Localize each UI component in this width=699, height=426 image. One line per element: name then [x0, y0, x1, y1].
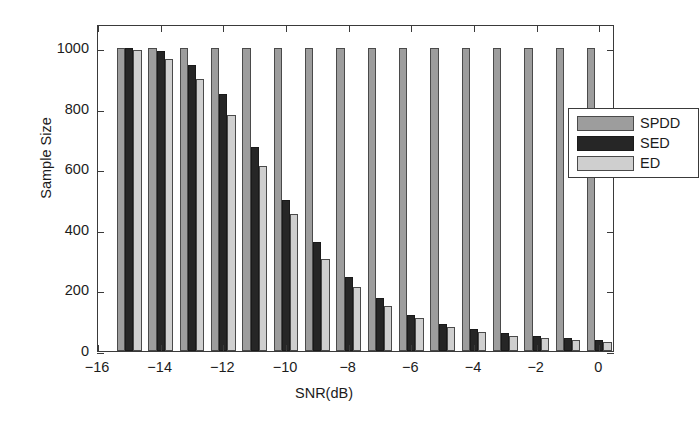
- x-tick: [349, 345, 350, 352]
- bar-ed: [165, 59, 173, 351]
- bar-sed: [251, 147, 259, 351]
- bar-spdd: [148, 48, 156, 351]
- y-axis-title: Sample Size: [38, 68, 54, 248]
- x-tick-top: [161, 25, 162, 32]
- bar-ed: [541, 338, 549, 351]
- bar-spdd: [242, 48, 250, 351]
- y-tick: [97, 171, 104, 172]
- y-tick-label: 200: [35, 282, 89, 298]
- legend-swatch-spdd: [577, 116, 634, 131]
- bar-ed: [133, 50, 141, 351]
- legend-swatch-ed: [577, 156, 634, 171]
- bar-ed: [603, 342, 611, 351]
- bar-spdd: [524, 48, 532, 351]
- bar-spdd: [336, 48, 344, 351]
- bar-ed: [572, 340, 580, 351]
- bar-spdd: [430, 48, 438, 351]
- bar-group: [305, 26, 329, 351]
- x-tick-top: [474, 25, 475, 32]
- bar-group: [336, 26, 360, 351]
- bar-sed: [188, 65, 196, 351]
- bar-spdd: [587, 48, 595, 351]
- bar-group: [430, 26, 454, 351]
- x-tick-label: −12: [192, 359, 252, 375]
- x-tick-top: [286, 25, 287, 32]
- bar-ed: [196, 79, 204, 351]
- bar-sed: [564, 338, 572, 351]
- legend-swatch-sed: [577, 136, 634, 151]
- x-tick-label: −6: [380, 359, 440, 375]
- legend-item-sed: SED: [577, 135, 693, 152]
- x-tick-label: −10: [255, 359, 315, 375]
- bar-sed: [313, 242, 321, 351]
- y-tick: [97, 232, 104, 233]
- legend-item-ed: ED: [577, 155, 693, 172]
- bar-group: [148, 26, 172, 351]
- bar-sed: [345, 277, 353, 351]
- legend-label-ed: ED: [640, 155, 660, 172]
- legend-item-spdd: SPDD: [577, 115, 693, 132]
- bar-group: [399, 26, 423, 351]
- x-tick-top: [599, 25, 600, 32]
- bar-ed: [353, 287, 361, 351]
- bar-spdd: [211, 48, 219, 351]
- bar-spdd: [462, 48, 470, 351]
- bar-sed: [439, 324, 447, 351]
- y-tick-label: 1000: [35, 40, 89, 56]
- bar-spdd: [117, 48, 125, 351]
- x-tick: [411, 345, 412, 352]
- x-tick-label: 0: [568, 359, 628, 375]
- bar-ed: [415, 318, 423, 351]
- y-tick: [97, 292, 104, 293]
- bar-group: [587, 26, 611, 351]
- bar-spdd: [180, 48, 188, 351]
- bar-ed: [478, 332, 486, 351]
- bar-ed: [290, 214, 298, 351]
- x-tick-top: [349, 25, 350, 32]
- bar-group: [274, 26, 298, 351]
- bar-ed: [509, 336, 517, 351]
- bar-ed: [384, 306, 392, 351]
- bar-group: [462, 26, 486, 351]
- bar-spdd: [556, 48, 564, 351]
- y-tick-right: [607, 353, 614, 354]
- bar-group: [524, 26, 548, 351]
- bar-group: [117, 26, 141, 351]
- bar-sed: [157, 51, 165, 351]
- x-tick-label: −14: [130, 359, 190, 375]
- bar-spdd: [399, 48, 407, 351]
- x-tick-top: [537, 25, 538, 32]
- y-tick-label: 0: [35, 343, 89, 359]
- y-tick: [97, 353, 104, 354]
- y-tick-right: [607, 232, 614, 233]
- bar-group: [180, 26, 204, 351]
- bar-spdd: [274, 48, 282, 351]
- bar-ed: [321, 259, 329, 351]
- x-tick-label: −8: [318, 359, 378, 375]
- bar-ed: [227, 115, 235, 351]
- bar-group: [211, 26, 235, 351]
- bar-sed: [501, 333, 509, 351]
- x-tick-label: −16: [67, 359, 127, 375]
- bar-spdd: [305, 48, 313, 351]
- bar-spdd: [368, 48, 376, 351]
- x-tick: [286, 345, 287, 352]
- x-tick: [537, 345, 538, 352]
- y-tick: [97, 50, 104, 51]
- bar-group: [242, 26, 266, 351]
- bar-sed: [219, 94, 227, 351]
- y-tick-right: [607, 50, 614, 51]
- plot-area: SPDD SED ED: [97, 25, 614, 352]
- bar-ed: [447, 327, 455, 351]
- chart-legend[interactable]: SPDD SED ED: [568, 108, 699, 178]
- bar-sed: [125, 48, 133, 351]
- x-tick-top: [98, 25, 99, 32]
- x-tick-top: [223, 25, 224, 32]
- x-tick-label: −2: [506, 359, 566, 375]
- x-tick: [223, 345, 224, 352]
- x-tick-label: −4: [443, 359, 503, 375]
- bar-spdd: [493, 48, 501, 351]
- legend-label-sed: SED: [640, 135, 670, 152]
- bars-layer: [98, 26, 613, 351]
